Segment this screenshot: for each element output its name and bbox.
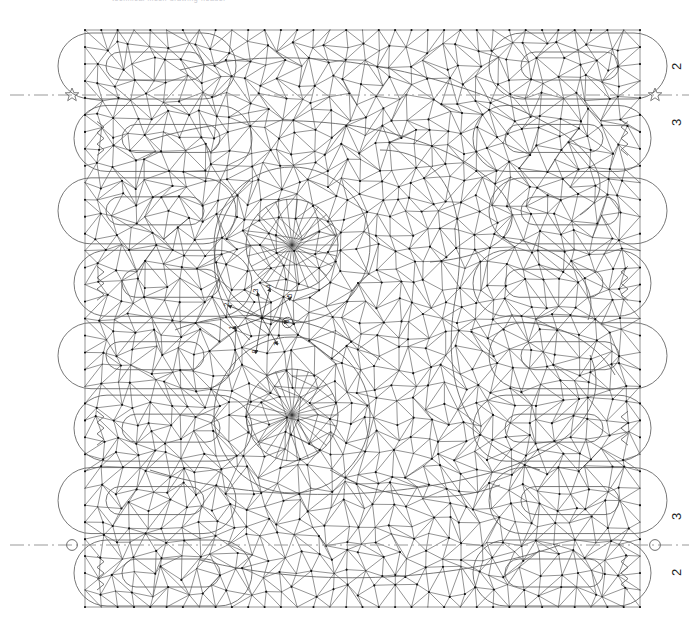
axis-label-above: 3	[669, 513, 684, 520]
rosette-number: 5	[287, 294, 294, 298]
rosette-number: 2	[224, 302, 231, 306]
axis-label-below: 3	[669, 119, 684, 126]
mesh-layer	[85, 30, 640, 607]
rosette-number: 3	[253, 289, 260, 293]
mesh-svg	[0, 0, 699, 620]
rosette-number: 4	[265, 285, 272, 289]
star-marker	[65, 88, 79, 101]
axis-label-below: 2	[669, 569, 684, 576]
rosette-number: 7	[273, 341, 280, 345]
rosette-number: 6	[283, 319, 290, 323]
drawing-canvas: technical mesh drawing header 2332123456…	[0, 0, 699, 620]
rosette-number: 1	[228, 325, 235, 329]
rosette-number: 8	[251, 350, 258, 354]
axis-label-above: 2	[669, 63, 684, 70]
star-marker	[648, 88, 662, 101]
